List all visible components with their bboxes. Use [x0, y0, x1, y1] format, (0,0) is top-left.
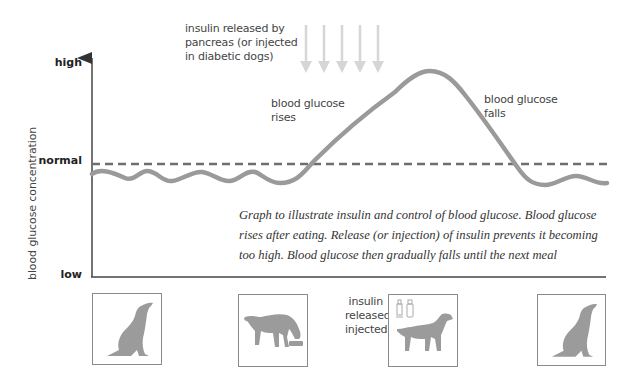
insulin-arrow	[354, 25, 366, 73]
level-normal-label: normal	[32, 154, 82, 167]
insulin-panel-annotation: insulin released or injected	[345, 295, 383, 337]
glucose-curve	[92, 71, 607, 185]
dog-sitting-icon	[538, 295, 607, 367]
level-low-label: low	[32, 268, 82, 281]
insulin-arrow	[300, 25, 312, 73]
glucose-falls-annotation: blood glucose falls	[484, 93, 558, 121]
dog-sitting-icon	[93, 294, 163, 366]
insulin-release-annotation: insulin released by pancreas (or injecte…	[185, 22, 298, 64]
y-axis-title: blood glucose concentration	[26, 135, 39, 280]
stage-panel-sitting	[92, 293, 162, 365]
stage-panel-sitting-again	[537, 294, 606, 366]
insulin-vial-icon	[394, 299, 418, 321]
glucose-rises-annotation: blood glucose rises	[271, 97, 345, 125]
stage-panel-insulin	[388, 294, 458, 367]
insulin-arrow	[336, 25, 348, 73]
dog-eating-icon	[239, 295, 309, 368]
insulin-arrows	[300, 25, 384, 73]
graph-caption: Graph to illustrate insulin and control …	[239, 205, 598, 265]
insulin-arrow	[372, 25, 384, 73]
stage-panel-eating	[238, 294, 308, 367]
insulin-arrow	[318, 25, 330, 73]
level-high-label: high	[32, 56, 82, 69]
